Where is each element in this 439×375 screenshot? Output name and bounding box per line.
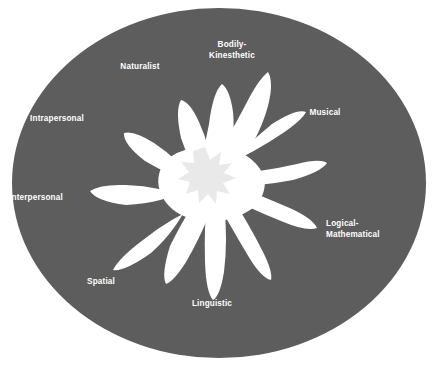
label-logical-mathematical: Logical- Mathematical bbox=[326, 219, 422, 240]
label-bodily-kinesthetic: Bodily- Kinesthetic bbox=[192, 40, 272, 61]
label-spatial: Spatial bbox=[72, 277, 130, 288]
label-musical: Musical bbox=[292, 108, 358, 119]
label-linguistic: Linguistic bbox=[177, 299, 247, 310]
label-intrapersonal: Intrapersonal bbox=[11, 114, 103, 125]
multiple-intelligences-diagram: Bodily- Kinesthetic Naturalist Musical I… bbox=[0, 0, 439, 375]
label-interpersonal: Interpersonal bbox=[0, 193, 81, 204]
label-naturalist: Naturalist bbox=[102, 62, 178, 73]
